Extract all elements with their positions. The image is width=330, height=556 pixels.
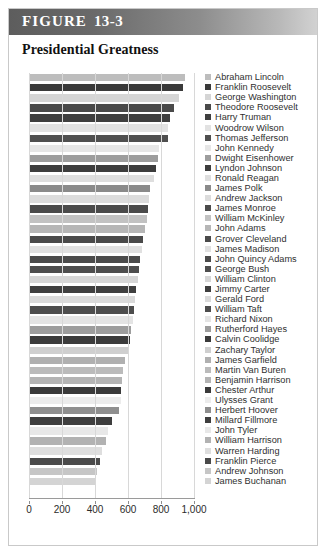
legend-swatch-icon — [205, 135, 211, 141]
bar-row — [29, 446, 194, 456]
legend-item-label: Theodore Roosevelt — [215, 102, 298, 112]
legend-item[interactable]: Chester Arthur — [205, 385, 317, 395]
legend-item[interactable]: Rutherford Hayes — [205, 324, 317, 334]
legend-item[interactable]: Franklin Roosevelt — [205, 82, 317, 92]
legend-item-label: Harry Truman — [215, 112, 271, 122]
legend-item[interactable]: Grover Cleveland — [205, 234, 317, 244]
bar — [29, 195, 149, 202]
legend-item-label: Richard Nixon — [215, 314, 273, 324]
bar-row — [29, 386, 194, 396]
legend-item-label: Andrew Johnson — [215, 466, 283, 476]
legend-item[interactable]: James Garfield — [205, 355, 317, 365]
bar-row — [29, 285, 194, 295]
legend-item[interactable]: James Polk — [205, 183, 317, 193]
bar — [29, 326, 131, 333]
legend-swatch-icon — [205, 437, 211, 443]
legend-item[interactable]: Ulysses Grant — [205, 395, 317, 405]
legend-item-label: Jimmy Carter — [215, 284, 270, 294]
legend-item-label: Franklin Roosevelt — [215, 82, 291, 92]
figure-number: 13-3 — [94, 13, 123, 29]
bar — [29, 286, 136, 293]
legend-item[interactable]: Warren Harding — [205, 445, 317, 455]
legend-item[interactable]: Herbert Hoover — [205, 405, 317, 415]
x-tick-label: 800 — [153, 504, 170, 515]
legend-item[interactable]: John Quincy Adams — [205, 254, 317, 264]
legend-item[interactable]: Calvin Coolidge — [205, 334, 317, 344]
legend-item[interactable]: Andrew Johnson — [205, 466, 317, 476]
legend-item-label: Warren Harding — [215, 446, 280, 456]
bar — [29, 427, 108, 434]
legend-item[interactable]: Martin Van Buren — [205, 365, 317, 375]
legend-swatch-icon — [205, 94, 211, 100]
bar — [29, 458, 100, 465]
legend-item[interactable]: William Harrison — [205, 435, 317, 445]
bar-row — [29, 194, 194, 204]
legend-item[interactable]: George Bush — [205, 264, 317, 274]
bar-row — [29, 103, 194, 113]
gridline — [194, 73, 195, 498]
legend-item[interactable]: William Taft — [205, 304, 317, 314]
bar-row — [29, 204, 194, 214]
bar — [29, 417, 112, 424]
legend-item[interactable]: Woodrow Wilson — [205, 122, 317, 132]
bar — [29, 246, 142, 253]
legend-item[interactable]: John Adams — [205, 223, 317, 233]
bar-row — [29, 83, 194, 93]
bar-row — [29, 346, 194, 356]
legend-swatch-icon — [205, 458, 211, 464]
legend-item[interactable]: James Monroe — [205, 203, 317, 213]
legend-item[interactable]: Zachary Taylor — [205, 345, 317, 355]
legend-item[interactable]: Abraham Lincoln — [205, 72, 317, 82]
x-tick-label: 600 — [120, 504, 137, 515]
figure-header-band: FIGURE13-3 — [9, 9, 317, 35]
legend-item[interactable]: Theodore Roosevelt — [205, 102, 317, 112]
legend-swatch-icon — [205, 165, 211, 171]
legend-item-label: Ronald Reagan — [215, 173, 279, 183]
legend-swatch-icon — [205, 377, 211, 383]
legend-item[interactable]: James Buchanan — [205, 476, 317, 486]
legend-item[interactable]: Lyndon Johnson — [205, 163, 317, 173]
legend-swatch-icon — [205, 155, 211, 161]
bar-row — [29, 265, 194, 275]
bar-row — [29, 123, 194, 133]
bar — [29, 347, 128, 354]
legend-item[interactable]: Franklin Pierce — [205, 456, 317, 466]
legend-swatch-icon — [205, 175, 211, 181]
legend-item[interactable]: James Madison — [205, 244, 317, 254]
legend-item-label: Dwight Eisenhower — [215, 153, 294, 163]
legend-item[interactable]: John Kennedy — [205, 143, 317, 153]
legend-swatch-icon — [205, 256, 211, 262]
legend-item[interactable]: Jimmy Carter — [205, 284, 317, 294]
bar-row — [29, 134, 194, 144]
legend-item[interactable]: John Tyler — [205, 425, 317, 435]
legend-item-label: John Adams — [215, 223, 266, 233]
bar-row — [29, 93, 194, 103]
plot-area — [29, 73, 194, 498]
legend-swatch-icon — [205, 326, 211, 332]
legend-item[interactable]: William McKinley — [205, 213, 317, 223]
legend-item[interactable]: George Washington — [205, 92, 317, 102]
figure-container: FIGURE13-3 Presidential Greatness 020040… — [8, 8, 318, 546]
bar-row — [29, 406, 194, 416]
legend-swatch-icon — [205, 215, 211, 221]
bar-row — [29, 255, 194, 265]
legend-item[interactable]: Benjamin Harrison — [205, 375, 317, 385]
x-tick-label: 1,000 — [181, 504, 206, 515]
legend-item[interactable]: Gerald Ford — [205, 294, 317, 304]
x-tick-label: 0 — [26, 504, 32, 515]
legend-swatch-icon — [205, 185, 211, 191]
legend-item-label: Ulysses Grant — [215, 395, 273, 405]
legend-item[interactable]: Thomas Jefferson — [205, 133, 317, 143]
legend-item[interactable]: Ronald Reagan — [205, 173, 317, 183]
legend-item[interactable]: Richard Nixon — [205, 314, 317, 324]
legend-item[interactable]: Dwight Eisenhower — [205, 153, 317, 163]
legend-item-label: Grover Cleveland — [215, 234, 287, 244]
legend-item[interactable]: Harry Truman — [205, 112, 317, 122]
legend-item[interactable]: Andrew Jackson — [205, 193, 317, 203]
legend-item[interactable]: Millard Fillmore — [205, 415, 317, 425]
bar — [29, 114, 170, 121]
legend-item[interactable]: William Clinton — [205, 274, 317, 284]
legend-item-label: Chester Arthur — [215, 385, 274, 395]
legend-swatch-icon — [205, 74, 211, 80]
bar — [29, 124, 168, 131]
